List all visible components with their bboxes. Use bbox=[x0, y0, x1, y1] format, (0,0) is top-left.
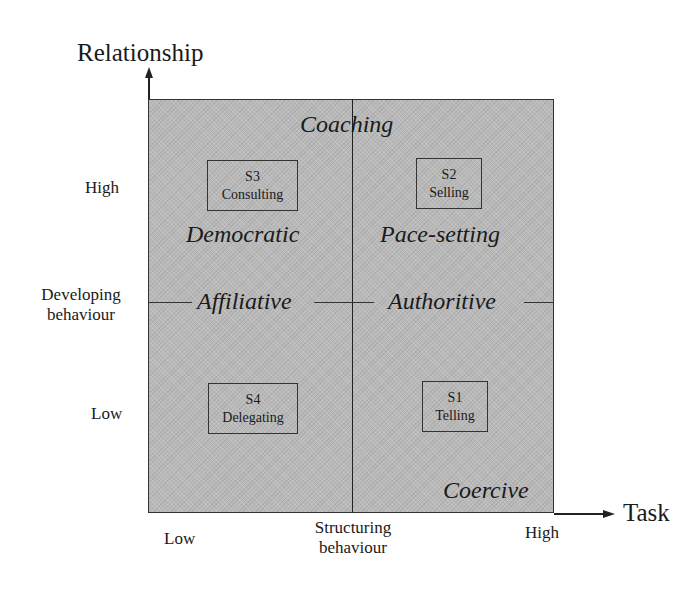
s1-name: Telling bbox=[435, 407, 474, 425]
horizontal-divider-segment bbox=[148, 302, 192, 303]
quadrant-box-s1: S1 Telling bbox=[422, 381, 488, 432]
y-axis-title: Relationship bbox=[77, 40, 203, 65]
label-authoritive: Authoritive bbox=[388, 289, 496, 313]
label-coaching: Coaching bbox=[296, 112, 397, 136]
label-affiliative: Affiliative bbox=[197, 289, 292, 313]
s3-code: S3 bbox=[245, 168, 260, 186]
x-axis-arrowhead-icon bbox=[603, 509, 615, 519]
label-coercive: Coercive bbox=[443, 478, 529, 502]
s4-code: S4 bbox=[246, 391, 261, 409]
y-tick-high: High bbox=[85, 178, 119, 198]
label-pace-setting: Pace-setting bbox=[380, 222, 500, 246]
y-axis-line bbox=[148, 76, 150, 100]
y-tick-low: Low bbox=[91, 404, 122, 424]
x-tick-middle-line1: Structuring bbox=[292, 518, 414, 538]
x-axis-title: Task bbox=[623, 500, 670, 525]
s4-name: Delegating bbox=[222, 409, 283, 427]
vertical-divider bbox=[352, 99, 353, 513]
y-tick-middle-line2: behaviour bbox=[22, 305, 140, 325]
quadrant-box-s3: S3 Consulting bbox=[207, 160, 298, 211]
quadrant-box-s2: S2 Selling bbox=[416, 158, 482, 209]
horizontal-divider-segment bbox=[524, 302, 554, 303]
x-tick-middle: Structuring behaviour bbox=[292, 518, 414, 557]
x-tick-high: High bbox=[525, 523, 559, 543]
label-democratic: Democratic bbox=[186, 222, 299, 246]
horizontal-divider-segment bbox=[314, 302, 374, 303]
s1-code: S1 bbox=[448, 389, 463, 407]
y-axis-arrowhead-icon bbox=[144, 67, 154, 79]
y-tick-middle: Developing behaviour bbox=[22, 285, 140, 324]
x-tick-low: Low bbox=[164, 529, 195, 549]
quadrant-box-s4: S4 Delegating bbox=[208, 383, 298, 434]
s2-code: S2 bbox=[442, 166, 457, 184]
x-tick-middle-line2: behaviour bbox=[292, 538, 414, 558]
y-tick-middle-line1: Developing bbox=[22, 285, 140, 305]
s3-name: Consulting bbox=[222, 186, 283, 204]
s2-name: Selling bbox=[429, 184, 469, 202]
x-axis-line bbox=[554, 513, 606, 515]
